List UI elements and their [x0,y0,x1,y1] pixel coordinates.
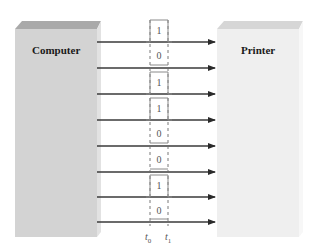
printer-label: Printer [241,44,275,56]
parallel-transmission-diagram: Computer Printer 1 0 1 1 0 0 1 0 t0 t1 [0,0,314,250]
bit-label: 1 [150,180,168,191]
t0-subscript: 0 [148,237,152,245]
computer-top-face [15,21,101,29]
bit-label: 1 [150,103,168,114]
bit-label: 0 [150,205,168,216]
bit-label: 1 [150,77,168,88]
t1-label: t1 [165,231,171,245]
bit-label: 0 [150,50,168,61]
printer-side-face [299,21,303,237]
printer-top-face [217,21,303,29]
bit-label: 1 [150,25,168,36]
t0-label: t0 [145,231,151,245]
t1-subscript: 1 [168,237,172,245]
computer-side-face [97,21,101,237]
printer-front-face [217,29,299,237]
computer-front-face [15,29,97,237]
bit-label: 0 [150,154,168,165]
bit-label: 0 [150,128,168,139]
computer-label: Computer [32,44,80,56]
